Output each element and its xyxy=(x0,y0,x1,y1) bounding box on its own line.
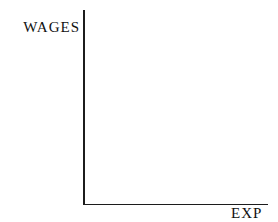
y-axis-line xyxy=(83,10,85,205)
x-axis-label: EXP xyxy=(231,205,262,222)
y-axis-label: WAGES xyxy=(0,19,80,36)
wages-exp-empty-axes-chart: WAGES EXP xyxy=(0,0,278,222)
